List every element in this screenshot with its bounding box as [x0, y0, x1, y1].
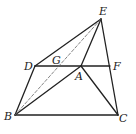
point-label-b: B	[3, 110, 12, 123]
point-label-c: C	[119, 112, 128, 125]
point-label-f: F	[112, 60, 121, 73]
point-label-g: G	[52, 54, 61, 67]
segment-ac	[81, 66, 118, 115]
point-label-d: D	[23, 60, 33, 73]
point-label-e: E	[98, 5, 107, 18]
point-label-a: A	[74, 70, 83, 83]
geometry-diagram: EDGAFBC	[0, 0, 136, 134]
